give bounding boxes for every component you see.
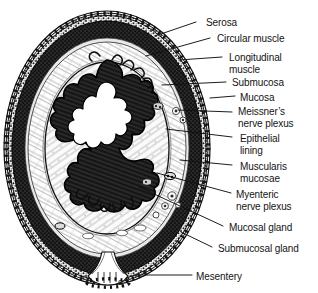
leader-line-serosa xyxy=(155,22,196,36)
label-epithelial-1: Epithelial xyxy=(240,133,280,145)
label-serosa: Serosa xyxy=(206,17,237,29)
label-myenteric-1: Myenteric xyxy=(236,189,278,201)
leader-line-submucosal-gland xyxy=(181,232,212,247)
intestine-cross-section-figure: q SerosaCircular muscleLongitudinalmuscl… xyxy=(0,0,318,293)
label-longitudinal-1: Longitudinal xyxy=(229,52,282,64)
gut-wall-group: q xyxy=(4,11,210,287)
label-meissners-1: Meissner’s xyxy=(238,106,285,118)
label-mesentery: Mesentery xyxy=(196,271,242,283)
label-mucosa: Mucosa xyxy=(240,92,274,104)
label-epithelial-2: lining xyxy=(240,145,263,157)
label-muscularis-2: mucosae xyxy=(240,173,280,185)
label-muscularis-1: Muscularis xyxy=(240,161,287,173)
mesentery-mark-label: q xyxy=(118,277,123,287)
label-submucosal-gland: Submucosal gland xyxy=(218,243,299,255)
label-submucosa: Submucosa xyxy=(232,77,284,89)
label-circular-muscle: Circular muscle xyxy=(217,33,284,45)
label-longitudinal-2: muscle xyxy=(229,64,260,76)
label-myenteric-2: nerve plexus xyxy=(236,201,292,213)
label-meissners-2: nerve plexus xyxy=(238,118,294,130)
label-mucosal-gland: Mucosal gland xyxy=(229,222,292,234)
leader-line-mucosa xyxy=(210,96,235,98)
